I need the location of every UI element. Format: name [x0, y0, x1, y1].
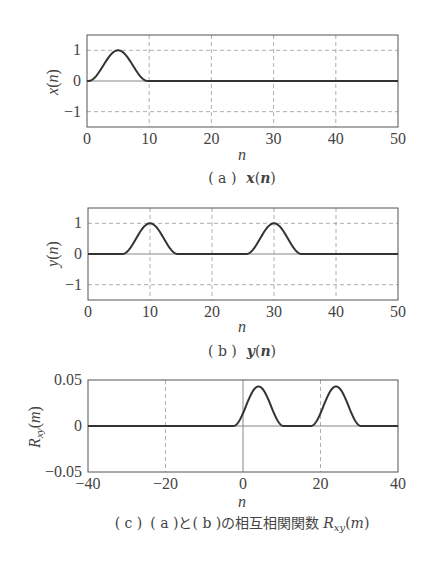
y-tick-label: −1: [65, 276, 82, 293]
y-tick-label: 0: [74, 245, 82, 262]
plot-b-ylabel: y(n): [44, 241, 62, 269]
x-tick-label: 10: [141, 130, 157, 147]
x-tick-label: 50: [390, 303, 406, 320]
x-tick-label: −20: [153, 475, 178, 492]
x-tick-label: 20: [204, 303, 220, 320]
plot-c-caption: ( c )( a )と( b )の相互相関関数Rxy(m): [115, 515, 370, 533]
x-tick-label: 40: [328, 303, 344, 320]
plot-c-xlabel: n: [238, 493, 246, 510]
x-tick-label: 20: [313, 475, 329, 492]
data-series-line: [88, 223, 398, 254]
plot-b-y-of-n: 01020304050−101: [65, 208, 406, 320]
x-tick-label: 0: [83, 130, 91, 147]
plot-b-xlabel: n: [238, 318, 246, 335]
y-tick-label: 1: [74, 214, 82, 231]
y-tick-label: 0: [74, 417, 82, 434]
y-tick-label: 0.05: [54, 371, 82, 388]
plot-a-xlabel: n: [238, 146, 246, 163]
x-tick-label: 10: [142, 303, 158, 320]
plot-a-ylabel: x(n): [44, 69, 62, 96]
x-tick-label: 20: [203, 130, 219, 147]
y-tick-label: 1: [73, 41, 81, 58]
plot-a-x-of-n: 01020304050−101: [64, 35, 406, 147]
plot-a-caption: ( a )x(n): [208, 170, 276, 186]
figure: 01020304050−101 n x(n) ( a )x(n) 0102030…: [0, 0, 438, 563]
y-tick-label: −0.05: [45, 463, 82, 480]
x-tick-label: 40: [328, 130, 344, 147]
y-tick-label: 0: [73, 72, 81, 89]
plot-c-ylabel: Rxy(m): [26, 406, 45, 449]
y-tick-label: −1: [64, 103, 81, 120]
x-tick-label: 0: [239, 475, 247, 492]
x-tick-label: 0: [84, 303, 92, 320]
data-series-line: [87, 50, 398, 81]
plot-b-caption: ( b )y(n): [208, 343, 276, 359]
x-tick-label: 40: [390, 475, 406, 492]
x-tick-label: 30: [266, 130, 282, 147]
x-tick-label: 30: [266, 303, 282, 320]
plot-c-cross-correlation: −40−2002040−0.0500.05: [45, 371, 406, 492]
x-tick-label: 50: [390, 130, 406, 147]
